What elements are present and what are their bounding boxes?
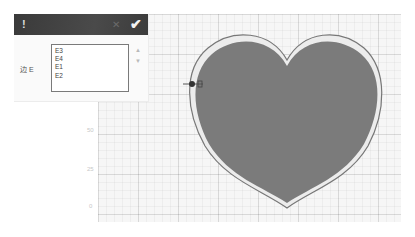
panel-header: ! ✕ ✔ bbox=[14, 14, 148, 35]
list-item[interactable]: E4 bbox=[55, 55, 125, 63]
move-down-icon[interactable]: ▼ bbox=[135, 58, 141, 64]
drag-handle-icon[interactable] bbox=[183, 79, 205, 89]
list-item[interactable]: E3 bbox=[55, 47, 125, 55]
edge-selection-panel: ! ✕ ✔ 边 E E3 E4 E1 E2 ▲ ▼ bbox=[14, 14, 149, 102]
list-item[interactable]: E1 bbox=[55, 63, 125, 71]
edge-field-label: 边 E bbox=[20, 64, 34, 74]
close-icon[interactable]: ✕ bbox=[112, 19, 120, 30]
move-up-icon[interactable]: ▲ bbox=[135, 47, 141, 53]
list-item[interactable]: E2 bbox=[55, 72, 125, 80]
confirm-check-icon[interactable]: ✔ bbox=[130, 16, 142, 32]
warning-icon: ! bbox=[22, 18, 26, 30]
edge-listbox[interactable]: E3 E4 E1 E2 bbox=[51, 44, 129, 92]
